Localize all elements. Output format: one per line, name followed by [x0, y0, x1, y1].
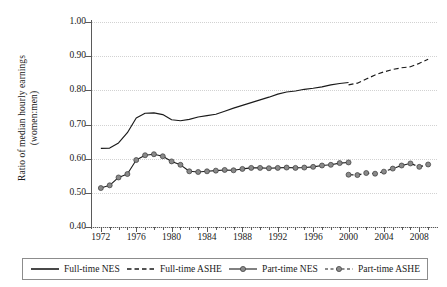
key-parttime-nes-icon: [228, 264, 258, 274]
x-tick-minor: [163, 227, 164, 230]
x-tick-label: 2004: [364, 232, 404, 243]
key-parttime-ashe-icon: [324, 264, 354, 274]
series-marker: [302, 165, 307, 170]
chart-legend: Full-time NESFull-time ASHEPart-time NES…: [22, 258, 428, 280]
series-marker: [408, 161, 413, 166]
x-tick-minor: [225, 227, 226, 230]
y-tick-label: 0.80: [42, 85, 86, 95]
series-marker: [266, 166, 271, 171]
series-marker: [196, 169, 201, 174]
x-tick-minor: [322, 227, 323, 230]
key-fulltime-ashe-icon: [126, 264, 156, 274]
x-tick-minor: [127, 227, 128, 230]
x-tick-label: 1980: [152, 232, 192, 243]
legend-item[interactable]: Full-time NES: [30, 264, 120, 274]
x-tick-minor: [180, 227, 181, 230]
key-fulltime-nes-icon: [30, 264, 60, 274]
y-tick-label: 0.60: [42, 154, 86, 164]
y-tick-mark: [85, 159, 91, 160]
series-marker: [417, 164, 422, 169]
x-tick-label: 2000: [329, 232, 369, 243]
y-tick-label: 0.90: [42, 51, 86, 61]
series-marker: [205, 169, 210, 174]
series-marker: [222, 167, 227, 172]
x-tick-minor: [331, 227, 332, 230]
x-tick-minor: [110, 227, 111, 230]
x-tick-minor: [393, 227, 394, 230]
series-marker: [284, 165, 289, 170]
series-marker: [364, 171, 369, 176]
legend-label: Full-time ASHE: [160, 264, 222, 274]
x-tick-minor: [145, 227, 146, 230]
legend-label: Part-time ASHE: [358, 264, 420, 274]
series-marker: [151, 152, 156, 157]
series-marker: [337, 161, 342, 166]
x-tick-minor: [375, 227, 376, 230]
x-axis-labels: 1972197619801984198819921996200020042008: [0, 232, 447, 246]
series-marker: [98, 186, 103, 191]
series-marker: [373, 171, 378, 176]
y-axis-title-line1: Ratio of median hourly earnings: [17, 23, 29, 213]
series-marker: [328, 162, 333, 167]
x-tick-minor: [189, 227, 190, 230]
series-marker: [399, 163, 404, 168]
x-tick-minor: [410, 227, 411, 230]
series-canvas: [92, 22, 437, 227]
x-tick-minor: [402, 227, 403, 230]
x-tick-label: 1976: [116, 232, 156, 243]
x-tick-minor: [269, 227, 270, 230]
x-tick-minor: [154, 227, 155, 230]
series-marker: [258, 165, 263, 170]
legend-label: Part-time NES: [262, 264, 318, 274]
y-tick-label: 0.70: [42, 120, 86, 130]
x-tick-minor: [304, 227, 305, 230]
x-tick-minor: [295, 227, 296, 230]
y-tick-mark: [85, 90, 91, 91]
legend-item[interactable]: Full-time ASHE: [126, 264, 222, 274]
series-marker: [381, 169, 386, 174]
legend-item[interactable]: Part-time NES: [228, 264, 318, 274]
series-marker: [213, 168, 218, 173]
series-marker: [426, 162, 431, 167]
legend-item[interactable]: Part-time ASHE: [324, 264, 420, 274]
y-tick-mark: [85, 193, 91, 194]
series-marker: [346, 160, 351, 165]
x-tick-minor: [357, 227, 358, 230]
x-tick-label: 1996: [293, 232, 333, 243]
x-tick-minor: [428, 227, 429, 230]
x-tick-minor: [251, 227, 252, 230]
x-tick-label: 1972: [81, 232, 121, 243]
series-marker: [143, 153, 148, 158]
series-marker: [293, 165, 298, 170]
x-tick-label: 1992: [258, 232, 298, 243]
series-marker: [311, 164, 316, 169]
y-tick-label: 0.50: [42, 188, 86, 198]
series-line-full-time-ashe: [349, 59, 429, 85]
x-tick-minor: [287, 227, 288, 230]
y-tick-label: 0.40: [42, 222, 86, 232]
series-marker: [355, 173, 360, 178]
series-marker: [320, 163, 325, 168]
x-tick-label: 1988: [222, 232, 262, 243]
y-tick-label: 1.00: [42, 17, 86, 27]
series-marker: [390, 166, 395, 171]
series-marker: [160, 154, 165, 159]
series-marker: [125, 172, 130, 177]
plot-area: [92, 22, 437, 227]
series-marker: [134, 158, 139, 163]
y-tick-mark: [85, 56, 91, 57]
y-tick-mark: [85, 125, 91, 126]
series-marker: [169, 159, 174, 164]
series-marker: [178, 162, 183, 167]
y-tick-mark: [85, 22, 91, 23]
y-axis-labels: 1.000.900.800.700.600.500.40: [36, 0, 86, 260]
x-tick-minor: [260, 227, 261, 230]
x-tick-minor: [234, 227, 235, 230]
series-marker: [231, 168, 236, 173]
x-tick-minor: [198, 227, 199, 230]
series-marker: [240, 166, 245, 171]
series-marker: [275, 165, 280, 170]
series-line-full-time-nes: [101, 82, 349, 148]
series-line-part-time-ashe: [349, 163, 429, 175]
x-tick-minor: [119, 227, 120, 230]
